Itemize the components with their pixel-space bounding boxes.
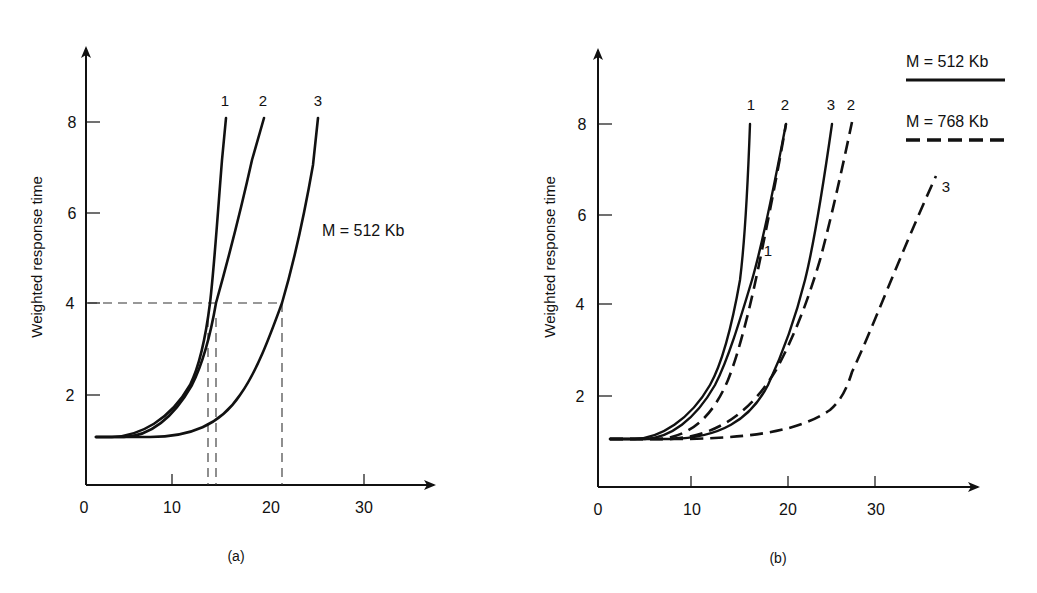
y-tick-label: 2 bbox=[66, 387, 75, 404]
figure: 8 6 4 2 0 10 20 30 Weighted response tim… bbox=[0, 0, 1037, 593]
y-tick-label: 6 bbox=[68, 205, 77, 222]
x-tick-label: 30 bbox=[867, 501, 885, 518]
x-tick-label: 10 bbox=[683, 501, 701, 518]
y-ticks bbox=[598, 124, 612, 396]
dashed-curve-label-1: 1 bbox=[764, 242, 772, 259]
y-axis-title: Weighted response time bbox=[28, 176, 45, 337]
caption-a: (a) bbox=[227, 548, 244, 564]
legend-label-768: M = 768 Kb bbox=[906, 113, 988, 130]
solid-curve-1 bbox=[610, 124, 750, 439]
y-ticks bbox=[86, 122, 100, 395]
panel-b: 8 6 4 2 0 10 20 30 Weighted response tim… bbox=[541, 50, 1005, 566]
solid-curve-label-1: 1 bbox=[747, 96, 755, 113]
dashed-curve-label-3: 3 bbox=[942, 178, 950, 195]
x-tick-label: 20 bbox=[779, 501, 797, 518]
panel-a: 8 6 4 2 0 10 20 30 Weighted response tim… bbox=[28, 48, 434, 564]
y-axis-title: Weighted response time bbox=[541, 176, 558, 337]
legend-label-512: M = 512 Kb bbox=[906, 53, 988, 70]
y-tick-label: 2 bbox=[576, 388, 585, 405]
curve-2 bbox=[96, 118, 264, 437]
x-ticks bbox=[691, 476, 875, 487]
x-tick-label: 0 bbox=[80, 499, 89, 516]
y-tick-label: 8 bbox=[68, 114, 77, 131]
solid-curve-label-3: 3 bbox=[827, 96, 835, 113]
curve-1 bbox=[96, 118, 226, 437]
curve-label-3: 3 bbox=[314, 92, 322, 109]
memory-annotation: M = 512 Kb bbox=[322, 222, 404, 239]
x-tick-label: 30 bbox=[355, 499, 373, 516]
x-tick-label: 0 bbox=[594, 501, 603, 518]
x-tick-label: 20 bbox=[262, 499, 280, 516]
dashed-curve-2 bbox=[610, 122, 852, 439]
curve-label-2: 2 bbox=[259, 92, 267, 109]
x-tick-label: 10 bbox=[163, 499, 181, 516]
y-tick-label: 4 bbox=[576, 296, 585, 313]
y-tick-label: 8 bbox=[578, 116, 587, 133]
curve-label-2: 2 bbox=[781, 96, 789, 113]
curve-3 bbox=[96, 118, 318, 437]
y-tick-label: 6 bbox=[578, 207, 587, 224]
caption-b: (b) bbox=[769, 550, 786, 566]
x-ticks bbox=[172, 474, 364, 485]
y-tick-label: 4 bbox=[66, 295, 75, 312]
dashed-curve-3 bbox=[610, 176, 936, 439]
curve-label-1: 1 bbox=[221, 92, 229, 109]
dashed-curve-label-2: 2 bbox=[847, 96, 855, 113]
solid-curve-3 bbox=[610, 124, 832, 439]
legend: M = 512 Kb M = 768 Kb bbox=[906, 53, 1005, 140]
